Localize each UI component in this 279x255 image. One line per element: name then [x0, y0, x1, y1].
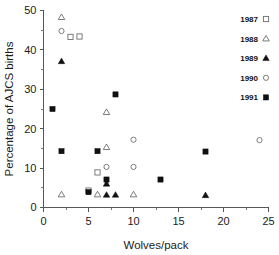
point-1988-3: [103, 109, 110, 115]
point-1987-3: [95, 170, 100, 175]
series-1990: [59, 28, 262, 169]
point-1988-4: [103, 144, 110, 150]
x-tick-label-10: 10: [127, 215, 139, 227]
point-1990-4: [257, 138, 262, 143]
point-1988-1: [58, 191, 65, 197]
legend-marker-1991: [263, 95, 268, 100]
legend-label-1991: 1991: [240, 93, 258, 102]
y-axis-title: Percentage of AJCS births: [3, 41, 15, 176]
series-1991: [50, 92, 208, 195]
axis-spines: [44, 11, 269, 208]
point-1990-1: [104, 164, 109, 169]
point-1991-5: [113, 92, 118, 97]
y-tick-label-20: 20: [24, 123, 36, 135]
legend-marker-1988: [263, 35, 270, 41]
y-tick-label-40: 40: [24, 44, 36, 56]
point-1987-0: [68, 34, 73, 39]
y-tick-label-30: 30: [24, 83, 36, 95]
chart-canvas: 010203040500510152025Wolves/packPercenta…: [0, 0, 279, 255]
x-tick-label-0: 0: [40, 215, 46, 227]
point-1991-1: [59, 149, 64, 154]
y-tick-label-50: 50: [24, 4, 36, 16]
point-1987-1: [77, 34, 82, 39]
legend-label-1989: 1989: [240, 54, 258, 63]
legend-marker-1987: [263, 16, 268, 21]
point-1991-2: [86, 190, 91, 195]
point-1990-2: [131, 137, 136, 142]
point-1988-2: [94, 191, 101, 197]
x-tick-label-5: 5: [85, 215, 91, 227]
point-1988-0: [58, 14, 65, 20]
legend-label-1990: 1990: [240, 74, 258, 83]
series-1989: [58, 58, 209, 198]
series-1987: [68, 34, 100, 193]
point-1990-3: [131, 164, 136, 169]
scatter-plot-figure: 010203040500510152025Wolves/packPercenta…: [0, 0, 279, 255]
point-1991-7: [203, 149, 208, 154]
point-1989-2: [103, 192, 110, 198]
x-tick-label-15: 15: [172, 215, 184, 227]
point-1990-0: [59, 28, 64, 33]
x-tick-label-25: 25: [262, 215, 274, 227]
point-1989-0: [58, 58, 65, 64]
point-1991-3: [95, 149, 100, 154]
point-1989-4: [202, 192, 209, 198]
point-1989-3: [112, 192, 119, 198]
y-tick-label-10: 10: [24, 162, 36, 174]
legend-marker-1990: [263, 75, 268, 80]
y-tick-label-0: 0: [30, 201, 36, 213]
point-1991-0: [50, 106, 55, 111]
point-1991-4: [104, 177, 109, 182]
point-1988-5: [130, 191, 137, 197]
legend-label-1987: 1987: [240, 15, 258, 24]
x-tick-label-20: 20: [217, 215, 229, 227]
legend-label-1988: 1988: [240, 35, 258, 44]
point-1991-6: [158, 177, 163, 182]
legend-marker-1989: [263, 55, 270, 61]
x-axis-title: Wolves/pack: [124, 239, 189, 251]
